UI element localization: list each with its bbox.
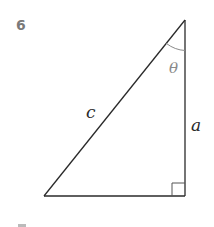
right-angle-marker <box>172 183 185 196</box>
angle-arc <box>166 43 185 50</box>
vertical-leg-label-a: a <box>191 115 201 135</box>
right-triangle-diagram: θ c a <box>0 0 214 227</box>
hypotenuse-label-c: c <box>86 102 96 122</box>
hypotenuse-side <box>44 20 185 196</box>
partial-next-item-glyph <box>18 224 26 227</box>
angle-theta-label: θ <box>169 59 178 77</box>
